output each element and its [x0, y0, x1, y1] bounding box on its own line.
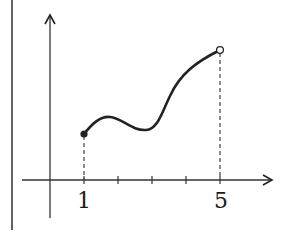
x-axis — [22, 175, 272, 185]
closed-endpoint-marker — [80, 130, 87, 137]
open-endpoint-marker — [217, 47, 224, 54]
function-graph: 1 5 — [0, 0, 295, 233]
x-label-1: 1 — [77, 188, 91, 213]
function-curve — [84, 50, 220, 134]
y-axis — [45, 15, 55, 218]
x-label-5: 5 — [214, 188, 228, 213]
